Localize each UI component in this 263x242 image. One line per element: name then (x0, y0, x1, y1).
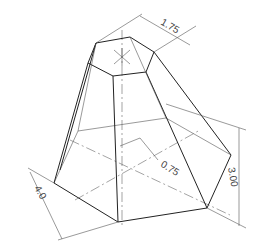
dimension-1-75: 1.75 (96, 14, 196, 52)
dimension-0-75: 0.75 (120, 138, 182, 178)
frustum-drawing: 1.75 4.0 3.00 0.75 (0, 0, 263, 242)
technical-drawing: 1.75 4.0 3.00 0.75 (0, 0, 263, 242)
dimension-4-0: 4.0 (28, 168, 118, 240)
base-hexagon (54, 118, 231, 222)
dim-label-0-75: 0.75 (159, 158, 182, 178)
dim-label-1-75: 1.75 (159, 16, 182, 35)
dim-label-3-00: 3.00 (226, 166, 240, 188)
lateral-edges (54, 37, 231, 222)
dim-label-4-0: 4.0 (32, 184, 49, 202)
centerlines (70, 30, 230, 225)
